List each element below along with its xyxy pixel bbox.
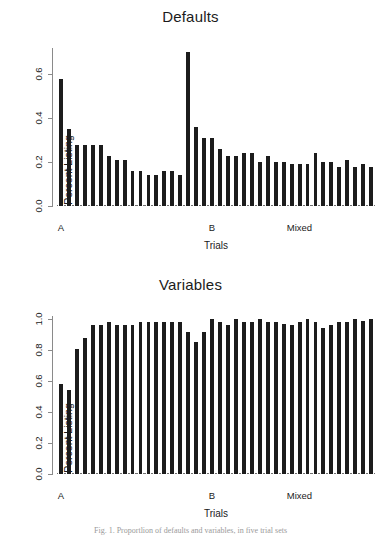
bar-cell: [240, 316, 248, 474]
bar-cell: [152, 48, 160, 206]
bar: [313, 322, 319, 474]
bar: [161, 322, 167, 474]
bar: [289, 325, 295, 474]
y-tick-mark: [48, 319, 53, 320]
bar-series-variables: [57, 316, 375, 474]
bar-cell: [232, 316, 240, 474]
y-tick-mark: [48, 381, 53, 382]
bar: [328, 325, 334, 474]
chart-panel-variables: Variables 0.00.20.40.60.81.0 Percent Lis…: [0, 268, 381, 536]
bar-cell: [359, 48, 367, 206]
bar-cell: [288, 48, 296, 206]
bar: [352, 319, 358, 474]
bar-cell: [335, 48, 343, 206]
bar-cell: [137, 48, 145, 206]
bar: [82, 338, 88, 474]
bar: [368, 167, 374, 207]
bar-cell: [335, 316, 343, 474]
bar-cell: [144, 316, 152, 474]
plot-area-defaults: 0.00.20.40.6 Percent Listing: [57, 48, 375, 206]
bar: [281, 324, 287, 474]
bar: [233, 319, 239, 474]
bar: [265, 156, 271, 206]
bar: [305, 164, 311, 206]
bar: [241, 322, 247, 474]
bar: [177, 322, 183, 474]
bar: [273, 162, 279, 206]
bar-cell: [168, 316, 176, 474]
bar: [169, 171, 175, 206]
bar: [98, 145, 104, 206]
bar-cell: [73, 316, 81, 474]
bar-cell: [144, 48, 152, 206]
bar: [328, 162, 334, 206]
bar-cell: [176, 316, 184, 474]
y-tick-mark: [48, 74, 53, 75]
chart-title-variables: Variables: [0, 276, 381, 293]
y-tick-label: 0.4: [34, 112, 44, 125]
bar: [344, 322, 350, 474]
y-tick-label: 0.2: [34, 436, 44, 449]
bar: [130, 325, 136, 474]
bar: [289, 164, 295, 206]
y-tick-mark: [48, 350, 53, 351]
bar: [114, 160, 120, 206]
chart-title-defaults: Defaults: [0, 8, 381, 25]
y-tick-mark: [48, 443, 53, 444]
bar-cell: [232, 48, 240, 206]
bar: [344, 160, 350, 206]
bar-cell: [97, 48, 105, 206]
bar-cell: [129, 48, 137, 206]
bar-cell: [89, 48, 97, 206]
bar-cell: [240, 48, 248, 206]
bar: [153, 322, 159, 474]
y-tick-mark: [48, 118, 53, 119]
bar-cell: [367, 48, 375, 206]
x-tick-label-mixed: Mixed: [287, 222, 312, 233]
bar: [185, 332, 191, 475]
bar-cell: [304, 316, 312, 474]
bar: [217, 149, 223, 206]
bar-cell: [160, 316, 168, 474]
bar: [273, 322, 279, 474]
bar: [265, 322, 271, 474]
bar: [74, 145, 80, 206]
y-tick-mark: [48, 206, 53, 207]
x-axis-group-defaults: A B Mixed Trials: [57, 214, 375, 254]
bar-cell: [113, 48, 121, 206]
bar-cell: [280, 48, 288, 206]
bar-cell: [359, 316, 367, 474]
bar: [257, 162, 263, 206]
bar-cell: [216, 316, 224, 474]
bar-cell: [160, 48, 168, 206]
bar: [90, 325, 96, 474]
bar: [138, 322, 144, 474]
bar: [201, 332, 207, 475]
bar: [114, 325, 120, 474]
x-tick-label-a: A: [58, 222, 64, 233]
bar-cell: [351, 48, 359, 206]
bar-cell: [152, 316, 160, 474]
bar: [106, 156, 112, 206]
bar: [122, 325, 128, 474]
bar: [305, 319, 311, 474]
bar-cell: [256, 48, 264, 206]
bar-cell: [343, 316, 351, 474]
chart-panel-defaults: Defaults 0.00.20.40.6 Percent Listing A …: [0, 0, 381, 268]
y-tick-label: 1.0: [34, 312, 44, 325]
bar: [320, 328, 326, 474]
bar: [185, 52, 191, 206]
y-tick-label: 0.0: [34, 467, 44, 480]
bar-cell: [176, 48, 184, 206]
y-tick-label: 0.0: [34, 199, 44, 212]
bar-cell: [280, 316, 288, 474]
bar: [161, 171, 167, 206]
bar-cell: [168, 48, 176, 206]
bar: [281, 162, 287, 206]
bar-cell: [73, 48, 81, 206]
bar: [209, 319, 215, 474]
bar-cell: [121, 316, 129, 474]
bar: [368, 319, 374, 474]
bar-cell: [97, 316, 105, 474]
bar-cell: [296, 316, 304, 474]
